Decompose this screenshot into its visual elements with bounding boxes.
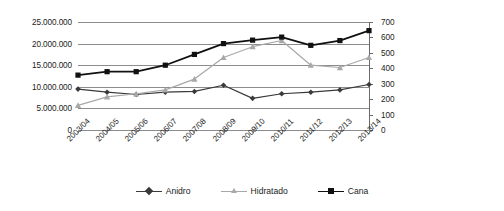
gridline-10000000	[78, 87, 369, 88]
y-left-tick-0: 0	[4, 126, 72, 135]
y-right-tick-500: 500	[381, 49, 409, 58]
legend-item-anidro[interactable]: Anidro	[136, 186, 191, 196]
plot-area	[78, 22, 369, 130]
gridline-5000000	[78, 108, 369, 109]
y-right-tick-100: 100	[381, 111, 409, 120]
y-right-tickmark-400	[369, 68, 373, 69]
legend-item-cana[interactable]: Cana	[318, 186, 369, 196]
y-right-tick-700: 700	[381, 18, 409, 27]
legend-key-square-icon	[318, 186, 344, 196]
legend-label: Anidro	[166, 186, 191, 196]
gridline-15000000	[78, 65, 369, 66]
y-right-tickmark-300	[369, 84, 373, 85]
y-right-tick-0: 0	[381, 126, 409, 135]
gridline-20000000	[78, 44, 369, 45]
y-right-tickmark-600	[369, 37, 373, 38]
chart-legend: AnidroHidratadoCana	[0, 186, 504, 196]
y-right-tickmark-100	[369, 115, 373, 116]
y-left-tick-25000000: 25.000.000	[4, 18, 72, 27]
legend-label: Hidratado	[251, 186, 288, 196]
legend-item-hidratado[interactable]: Hidratado	[221, 186, 288, 196]
y-right-tickmark-700	[369, 22, 373, 23]
y-right-tick-200: 200	[381, 95, 409, 104]
y-right-tick-400: 400	[381, 64, 409, 73]
legend-key-triangle-icon	[221, 186, 247, 196]
y-left-tick-20000000: 20.000.000	[4, 40, 72, 49]
y-left-tick-10000000: 10.000.000	[4, 83, 72, 92]
y-left-tick-5000000: 5.000.000	[4, 104, 72, 113]
y-right-tickmark-500	[369, 53, 373, 54]
y-right-tick-300: 300	[381, 80, 409, 89]
gridline-25000000	[78, 22, 369, 23]
legend-label: Cana	[348, 186, 369, 196]
line-chart: 25.000.000 20.000.000 15.000.000 10.000.…	[0, 0, 504, 211]
y-right-tickmark-200	[369, 99, 373, 100]
y-left-tick-15000000: 15.000.000	[4, 61, 72, 70]
legend-key-diamond-icon	[136, 186, 162, 196]
y-right-tick-600: 600	[381, 33, 409, 42]
